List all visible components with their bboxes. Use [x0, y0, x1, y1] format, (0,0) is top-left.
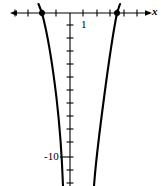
- parabola-right-branch: [94, 4, 120, 186]
- root-marker-right: [114, 10, 120, 16]
- x-axis-right-arrowhead: [145, 10, 152, 16]
- x-axis-name-label: x: [152, 6, 158, 17]
- root-marker-left: [39, 10, 45, 16]
- x-axis-left-arrowhead: [10, 10, 17, 16]
- x-axis-tick-label-1: 1: [81, 19, 87, 30]
- parabola-graph-figure: 1 -10 x: [0, 0, 164, 186]
- y-axis-tick-label-neg10: -10: [44, 151, 59, 162]
- x-axis-group: [10, 10, 152, 17]
